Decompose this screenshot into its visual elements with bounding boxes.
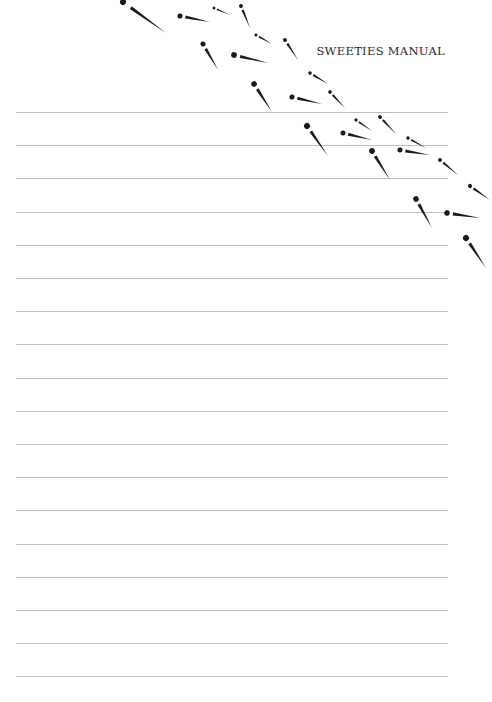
ruled-line [16, 178, 448, 179]
ruled-line [16, 278, 448, 279]
ruled-line [16, 676, 448, 677]
ruled-line [16, 444, 448, 445]
ruled-line [16, 378, 448, 379]
ruled-line [16, 510, 448, 511]
ruled-line [16, 477, 448, 478]
ruled-lines [16, 0, 448, 702]
ruled-line [16, 145, 448, 146]
ruled-line [16, 311, 448, 312]
ruled-line [16, 643, 448, 644]
ruled-line [16, 112, 448, 113]
ruled-line [16, 245, 448, 246]
ruled-line [16, 344, 448, 345]
ruled-line [16, 411, 448, 412]
ruled-line [16, 544, 448, 545]
ruled-line [16, 212, 448, 213]
ruled-line [16, 577, 448, 578]
notebook-page: SWEETIES MANUAL [0, 0, 492, 702]
ruled-line [16, 610, 448, 611]
